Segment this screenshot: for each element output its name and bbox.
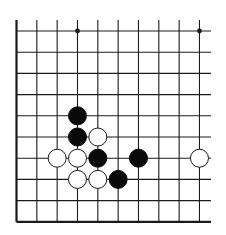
go-board-diagram (0, 0, 226, 235)
grid-lines (17, 20, 212, 222)
black-stone-icon (68, 128, 86, 146)
white-stone-icon (89, 170, 107, 188)
stones (48, 107, 208, 189)
white-stone-icon (89, 128, 107, 146)
star-point-icon (75, 29, 80, 34)
go-board (0, 0, 226, 235)
white-stone-icon (68, 170, 86, 188)
star-point-icon (197, 29, 202, 34)
white-stone-icon (48, 149, 66, 167)
black-stone-icon (89, 149, 107, 167)
black-stone-icon (109, 170, 127, 188)
black-stone-icon (68, 107, 86, 125)
white-stone-icon (190, 149, 208, 167)
white-stone-icon (68, 149, 86, 167)
black-stone-icon (129, 149, 147, 167)
